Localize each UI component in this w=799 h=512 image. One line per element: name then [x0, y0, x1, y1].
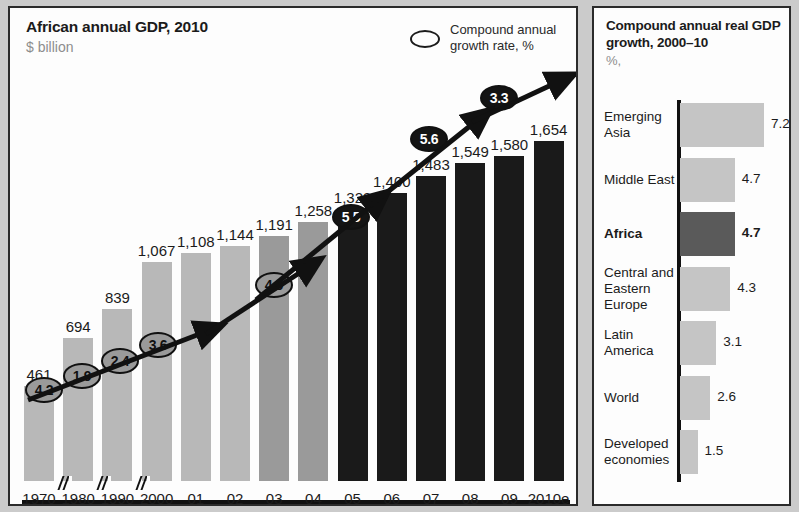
growth-rate-bubble: 5.6: [410, 126, 448, 152]
region-bar: [680, 376, 710, 420]
growth-rate-bubble: 5.5: [332, 204, 370, 230]
region-bar: [680, 158, 735, 202]
region-bar: [680, 212, 735, 256]
x-tick-label: 07: [423, 490, 440, 507]
regional-growth-chart-panel: Compound annual real GDP growth, 2000–10…: [592, 6, 791, 506]
gdp-bar: 694: [63, 8, 93, 481]
gdp-bar: 1,323: [338, 8, 368, 481]
gdp-bar: 1,654: [534, 8, 564, 481]
bar-value-label: 694: [66, 318, 91, 335]
region-value-label: 1.5: [705, 443, 724, 458]
bar-rect: [534, 141, 564, 481]
bar-rect: [455, 163, 485, 481]
gdp-bar: 1,258: [298, 8, 328, 481]
bar-value-label: 1,549: [451, 143, 489, 160]
x-tick-label: 04: [305, 490, 322, 507]
x-tick-label: 09: [501, 490, 518, 507]
region-value-label: 7.2: [771, 116, 790, 131]
region-value-label: 2.6: [717, 389, 736, 404]
right-panel-title: Compound annual real GDP growth, 2000–10: [606, 17, 786, 51]
region-value-label: 4.7: [742, 225, 761, 240]
gdp-bar: 1,580: [494, 8, 524, 481]
region-label: Africa: [604, 226, 680, 242]
region-bar: [680, 321, 716, 365]
regional-bar-row: Latin America3.1: [594, 321, 793, 365]
gdp-bar: 1,549: [455, 8, 485, 481]
gdp-bar: 1,067: [142, 8, 172, 481]
x-tick-label: 1990: [101, 490, 134, 507]
bar-rect: [377, 193, 407, 481]
x-tick-label: 1970: [22, 490, 55, 507]
bar-rect: [298, 222, 328, 481]
x-tick-label: 1980: [62, 490, 95, 507]
gdp-bar: 839: [102, 8, 132, 481]
region-label: Middle East: [604, 172, 680, 188]
growth-rate-bubble: 1.9: [63, 363, 101, 389]
region-label: Emerging Asia: [604, 109, 680, 141]
gdp-bar: 1,400: [377, 8, 407, 481]
x-tick-label: 01: [187, 490, 204, 507]
bar-rect: [494, 156, 524, 481]
regional-bar-row: Emerging Asia7.2: [594, 103, 793, 147]
region-value-label: 3.1: [723, 334, 742, 349]
bar-rect: [63, 338, 93, 481]
bar-value-label: 1,108: [177, 233, 215, 250]
x-tick-label: 05: [344, 490, 361, 507]
x-tick-label: 08: [462, 490, 479, 507]
regional-bar-row: Developed economies1.5: [594, 430, 793, 474]
bar-value-label: 1,067: [138, 242, 176, 259]
region-value-label: 4.3: [737, 280, 756, 295]
bar-rect: [142, 262, 172, 481]
x-tick-label: 2000: [140, 490, 173, 507]
bar-rect: [220, 246, 250, 481]
right-panel-subtitle: %,: [606, 53, 621, 68]
region-bar: [680, 267, 730, 311]
bar-value-label: 1,191: [255, 216, 293, 233]
region-label: World: [604, 390, 680, 406]
growth-rate-bubble: 4.2: [25, 377, 63, 403]
regional-bar-row: Central and Eastern Europe4.3: [594, 267, 793, 311]
gdp-bar: 1,191: [259, 8, 289, 481]
screenshot-root: African annual GDP, 2010 $ billion Compo…: [0, 0, 799, 512]
plot-area: 4616948391,0671,1081,1441,1911,2581,3231…: [10, 8, 576, 504]
gdp-bar: 1,144: [220, 8, 250, 481]
bar-value-label: 1,144: [216, 226, 254, 243]
region-bar: [680, 430, 698, 474]
gdp-bar: 461: [24, 8, 54, 481]
bar-value-label: 1,580: [491, 136, 529, 153]
axis-break-marker: [97, 476, 111, 490]
x-tick-label: 2010e: [528, 490, 570, 507]
region-label: Latin America: [604, 327, 680, 359]
growth-rate-bubble: 3.6: [139, 332, 177, 358]
growth-trend-arrow: [10, 8, 576, 504]
bar-value-label: 839: [105, 289, 130, 306]
bar-rect: [338, 209, 368, 481]
bar-rect: [416, 176, 446, 481]
x-tick-label: 02: [227, 490, 244, 507]
bar-rect: [181, 253, 211, 481]
growth-rate-bubble: 3.3: [480, 85, 518, 111]
regional-bar-row: Middle East4.7: [594, 158, 793, 202]
x-tick-label: 03: [266, 490, 283, 507]
x-tick-label: 06: [383, 490, 400, 507]
region-label: Developed economies: [604, 436, 680, 468]
african-gdp-chart-panel: African annual GDP, 2010 $ billion Compo…: [8, 6, 578, 506]
bar-value-label: 1,400: [373, 173, 411, 190]
growth-rate-bubble: 2.4: [101, 348, 139, 374]
regional-bar-row: World2.6: [594, 376, 793, 420]
axis-break-marker: [58, 476, 72, 490]
region-bar: [680, 103, 764, 147]
growth-rate-bubble: 4.9: [255, 272, 293, 298]
bar-value-label: 1,654: [530, 121, 568, 138]
bar-value-label: 1,483: [412, 156, 450, 173]
gdp-bar: 1,108: [181, 8, 211, 481]
bar-rect: [102, 309, 132, 481]
regional-bar-row: Africa4.7: [594, 212, 793, 256]
region-label: Central and Eastern Europe: [604, 265, 680, 313]
axis-break-marker: [136, 476, 150, 490]
bar-value-label: 1,258: [295, 202, 333, 219]
gdp-bar: 1,483: [416, 8, 446, 481]
region-value-label: 4.7: [742, 171, 761, 186]
